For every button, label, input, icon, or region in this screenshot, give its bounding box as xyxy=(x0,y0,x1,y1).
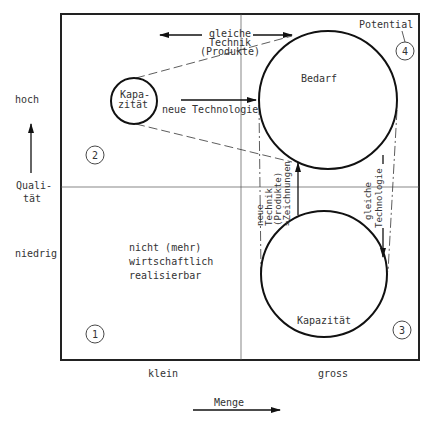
new-technology-label: neue Technologie xyxy=(162,104,258,115)
left-connector-line xyxy=(259,105,261,272)
lower-tangent-dashed-line xyxy=(136,124,292,162)
quadrant-1-text-1: nicht (mehr) xyxy=(129,242,201,253)
quadrant-1-number: 1 xyxy=(92,329,98,340)
demand-circle xyxy=(259,31,397,169)
same-technology-label-2: Technologie xyxy=(374,168,384,228)
y-axis-label-2: tät xyxy=(23,193,41,204)
small-capacity-label-2: zität xyxy=(118,99,148,110)
same-technology-label-1: gleiche xyxy=(363,182,373,220)
x-axis-large-label: gross xyxy=(318,368,348,379)
quadrant-4-number: 4 xyxy=(402,46,408,57)
quadrant-1-text-2: wirtschaftlich xyxy=(129,256,213,267)
same-technology-vertical-label: gleiche Technologie xyxy=(363,168,384,228)
same-technique-label-3: (Produkte) xyxy=(200,46,260,57)
new-technique-vertical-label: neue Technik (Produkte) =Zeichnungen xyxy=(255,161,292,226)
demand-label: Bedarf xyxy=(301,73,337,84)
potential-leader-line xyxy=(402,31,405,42)
large-capacity-label: Kapazität xyxy=(297,315,351,326)
quadrant-1-text-3: realisierbar xyxy=(129,270,201,281)
potential-label: Potential xyxy=(359,19,413,30)
new-technique-label-4: =Zeichnungen xyxy=(282,161,292,226)
y-axis-label-1: Quali- xyxy=(16,180,52,191)
x-axis-small-label: klein xyxy=(148,368,178,379)
quadrant-3-number: 3 xyxy=(399,325,405,336)
x-axis-label: Menge xyxy=(214,397,244,408)
y-axis-low-label: niedrig xyxy=(15,248,57,259)
capacity-demand-diagram: Kapa- zität Bedarf Kapazität gleiche Tec… xyxy=(0,0,428,422)
right-connector-line xyxy=(388,110,397,272)
y-axis-high-label: hoch xyxy=(15,94,39,105)
quadrant-2-number: 2 xyxy=(92,150,98,161)
